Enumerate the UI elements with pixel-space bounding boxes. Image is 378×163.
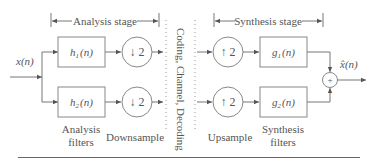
downsample-top: ↓ 2 <box>122 37 152 67</box>
upsample-bottom: ↑ 2 <box>213 87 243 117</box>
svg-text:g1(n): g1(n) <box>272 46 295 60</box>
upsample-top: ↑ 2 <box>213 37 243 67</box>
svg-text:g2(n): g2(n) <box>272 96 295 110</box>
svg-text:↑ 2: ↑ 2 <box>221 45 236 59</box>
svg-text:+: + <box>327 75 332 85</box>
channel-label: Coding, Channel, Decoding <box>175 28 187 151</box>
input-signal: x(n) <box>10 52 58 102</box>
caption-synthesis-filters-1: Synthesis <box>262 123 304 135</box>
caption-downsample: Downsample <box>106 131 164 143</box>
synthesis-stage-bracket: Synthesis stage <box>214 13 323 27</box>
analysis-filter-h2: h2(n) <box>58 87 105 117</box>
svg-text:↓ 2: ↓ 2 <box>130 95 145 109</box>
svg-text:h1(n): h1(n) <box>70 46 93 60</box>
synthesis-stage-label: Synthesis stage <box>234 15 302 27</box>
synthesis-filter-g1: g1(n) <box>260 37 307 67</box>
channel-region: Coding, Channel, Decoding <box>166 20 195 151</box>
caption-analysis-filters-1: Analysis <box>62 123 101 135</box>
caption-upsample: Upsample <box>208 131 253 143</box>
analysis-stage-bracket: Analysis stage <box>51 13 159 27</box>
filter-bank-diagram: Analysis stage Synthesis stage x(n) h1(n… <box>0 0 378 163</box>
synthesis-filter-g2: g2(n) <box>260 87 307 117</box>
caption-synthesis-filters-2: filters <box>270 136 296 148</box>
caption-analysis-filters-2: filters <box>68 136 94 148</box>
input-label: x(n) <box>15 55 34 68</box>
summation-node: + <box>323 73 338 88</box>
analysis-stage-label: Analysis stage <box>73 15 137 27</box>
svg-text:h2(n): h2(n) <box>70 96 93 110</box>
svg-text:↓ 2: ↓ 2 <box>130 45 145 59</box>
output-label: x̂(n) <box>339 58 358 71</box>
analysis-filter-h1: h1(n) <box>58 37 105 67</box>
output-signal: x̂(n) <box>338 58 367 80</box>
downsample-bottom: ↓ 2 <box>122 87 152 117</box>
svg-text:↑ 2: ↑ 2 <box>221 95 236 109</box>
